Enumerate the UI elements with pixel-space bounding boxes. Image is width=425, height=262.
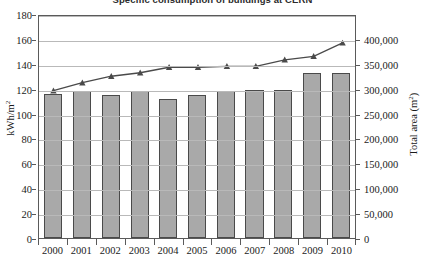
chart-figure: Specific consumption of buildings at CER… <box>0 0 425 262</box>
right-axis-tick-mark <box>356 189 360 190</box>
left-axis-tick-label: 140 <box>16 59 32 70</box>
right-axis-tick-label: 150,000 <box>364 159 398 170</box>
right-axis-tick-mark <box>356 115 360 116</box>
x-axis-label-2009: 2009 <box>298 245 327 261</box>
left-axis-tick-label: 100 <box>16 109 32 120</box>
gridline <box>39 66 355 67</box>
right-axis-tick-mark <box>356 90 360 91</box>
gridline <box>39 116 355 117</box>
right-axis-tick-mark <box>356 65 360 66</box>
gridline <box>39 140 355 141</box>
right-axis-tick-label: 50,000 <box>364 209 393 220</box>
x-axis-label-2002: 2002 <box>96 245 125 261</box>
x-axis-labels: 2000200120022003200420052006200720082009… <box>38 245 356 261</box>
left-axis-tick-mark <box>32 164 36 165</box>
x-axis-label-2007: 2007 <box>240 245 269 261</box>
gridline <box>39 165 355 166</box>
gridline <box>39 16 355 17</box>
left-axis-label: kWh/m2 <box>4 86 17 150</box>
left-axis-tick-mark <box>32 40 36 41</box>
left-axis-label-exponent: 2 <box>4 101 12 105</box>
left-axis-tick-mark <box>32 65 36 66</box>
left-axis-tick-mark <box>32 15 36 16</box>
right-axis-tick-label: 200,000 <box>364 134 398 145</box>
right-axis-tick-label: 350,000 <box>364 59 398 70</box>
right-axis-label: Total area (m2) <box>407 79 420 169</box>
x-axis-label-2006: 2006 <box>211 245 240 261</box>
right-axis-label-tail: ) <box>408 93 419 97</box>
x-axis-label-2010: 2010 <box>327 245 356 261</box>
left-axis-tick-label: 80 <box>22 134 33 145</box>
x-axis-label-2003: 2003 <box>125 245 154 261</box>
x-axis-label-2001: 2001 <box>67 245 96 261</box>
right-axis-tick-label: 400,000 <box>364 34 398 45</box>
gridline <box>39 91 355 92</box>
x-axis-label-2008: 2008 <box>269 245 298 261</box>
left-axis-tick-label: 40 <box>22 184 33 195</box>
right-axis-tick-mark <box>356 239 360 240</box>
right-axis-tick-mark <box>356 40 360 41</box>
right-axis-tick-mark <box>356 139 360 140</box>
left-axis-tick-mark <box>32 115 36 116</box>
left-axis-tick-label: 20 <box>22 209 33 220</box>
left-axis-tick-label: 180 <box>16 10 32 21</box>
right-axis-label-exponent: 2 <box>407 96 415 100</box>
right-axis-tick-label: 100,000 <box>364 184 398 195</box>
right-axis-label-text: Total area (m <box>408 100 419 156</box>
x-axis-label-2005: 2005 <box>183 245 212 261</box>
x-axis-label-2004: 2004 <box>154 245 183 261</box>
right-axis-tick-mark <box>356 164 360 165</box>
x-axis-label-2000: 2000 <box>38 245 67 261</box>
left-axis-tick-mark <box>32 189 36 190</box>
gridline <box>39 215 355 216</box>
x-axis: 2000200120022003200420052006200720082009… <box>38 239 356 261</box>
left-axis-tick-label: 120 <box>16 84 32 95</box>
left-axis-tick-mark <box>32 139 36 140</box>
right-axis-tick-label: 300,000 <box>364 84 398 95</box>
left-axis-tick-label: 160 <box>16 34 32 45</box>
right-axis-tick-label: 250,000 <box>364 109 398 120</box>
plot-area <box>38 15 356 239</box>
right-axis-tick-label: 0 <box>364 234 369 245</box>
gridline <box>39 190 355 191</box>
right-axis-tick-mark <box>356 214 360 215</box>
left-axis-tick-mark <box>32 214 36 215</box>
left-axis-label-text: kWh/m <box>5 104 16 136</box>
left-axis-tick-mark <box>32 239 36 240</box>
line-series <box>39 16 357 240</box>
left-axis-tick-label: 60 <box>22 159 33 170</box>
chart-title: Specific consumption of buildings at CER… <box>0 0 425 5</box>
gridline <box>39 41 355 42</box>
left-axis-tick-mark <box>32 90 36 91</box>
